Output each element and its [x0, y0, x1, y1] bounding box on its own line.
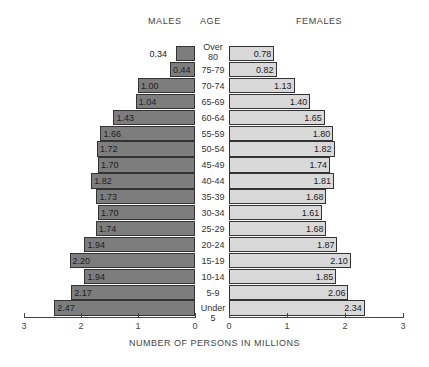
age-label: Over80: [197, 42, 229, 62]
male-value-label: 1.82: [94, 174, 112, 188]
male-axis-tick: [138, 313, 139, 317]
female-value-label: 2.10: [325, 254, 348, 268]
male-value-label: 1.94: [87, 270, 105, 284]
male-axis-tick: [24, 313, 25, 317]
age-label: 25-29: [197, 224, 229, 234]
age-label: 20-24: [197, 240, 229, 250]
female-axis-tick: [287, 313, 288, 317]
age-label: 70-74: [197, 81, 229, 91]
female-value-label: 0.78: [248, 47, 271, 61]
female-value-label: 1.74: [304, 158, 327, 172]
age-label: 15-19: [197, 256, 229, 266]
male-axis-line: [24, 317, 196, 318]
female-value-label: 1.68: [300, 190, 323, 204]
female-value-label: 1.87: [311, 238, 334, 252]
female-value-label: 1.68: [300, 222, 323, 236]
age-label: 60-64: [197, 113, 229, 123]
male-value-label: 2.47: [57, 301, 75, 315]
female-value-label: 1.81: [308, 174, 331, 188]
age-label: 35-39: [197, 192, 229, 202]
female-value-label: 1.80: [307, 127, 330, 141]
female-value-label: 1.82: [309, 142, 332, 156]
male-value-label: 0.34: [150, 47, 168, 61]
male-axis-tick: [81, 313, 82, 317]
age-label: 10-14: [197, 272, 229, 282]
male-value-label: 0.44: [173, 63, 191, 77]
female-value-label: 2.34: [339, 301, 362, 315]
male-axis-tick-label: 1: [132, 321, 144, 331]
age-label: 45-49: [197, 160, 229, 170]
age-label: 40-44: [197, 176, 229, 186]
female-axis-line: [229, 317, 404, 318]
male-axis-tick-label: 2: [75, 321, 87, 331]
age-label: 30-34: [197, 208, 229, 218]
header-age: AGE: [200, 16, 221, 26]
male-bar: [176, 46, 195, 61]
age-label: 55-59: [197, 129, 229, 139]
female-axis-tick: [403, 313, 404, 317]
female-axis-tick-label: 3: [397, 321, 409, 331]
male-value-label: 1.94: [87, 238, 105, 252]
male-axis-tick-label: 0: [189, 321, 201, 331]
female-value-label: 1.61: [296, 206, 319, 220]
age-label: 65-69: [197, 97, 229, 107]
age-label: 50-54: [197, 144, 229, 154]
female-value-label: 0.82: [251, 63, 274, 77]
male-value-label: 1.72: [100, 142, 118, 156]
male-value-label: 2.20: [73, 254, 91, 268]
male-value-label: 1.74: [99, 222, 117, 236]
male-value-label: 1.43: [116, 111, 134, 125]
female-value-label: 1.40: [284, 95, 307, 109]
male-value-label: 2.17: [74, 286, 92, 300]
male-value-label: 1.04: [139, 95, 157, 109]
header-females: FEMALES: [296, 16, 342, 26]
male-value-label: 1.66: [103, 127, 121, 141]
male-bar: [54, 300, 195, 315]
female-value-label: 1.85: [310, 270, 333, 284]
female-axis-tick-label: 2: [339, 321, 351, 331]
male-value-label: 1.70: [101, 206, 119, 220]
male-value-label: 1.00: [141, 79, 159, 93]
male-value-label: 1.70: [101, 158, 119, 172]
header-males: MALES: [148, 16, 182, 26]
female-value-label: 2.06: [322, 286, 345, 300]
female-value-label: 1.13: [269, 79, 292, 93]
female-value-label: 1.65: [299, 111, 322, 125]
female-axis-tick-label: 1: [281, 321, 293, 331]
female-axis-tick: [229, 313, 230, 317]
female-axis-tick-label: 0: [223, 321, 235, 331]
male-axis-tick-label: 3: [18, 321, 30, 331]
x-axis-label: NUMBER OF PERSONS IN MILLIONS: [0, 338, 429, 348]
female-axis-tick: [345, 313, 346, 317]
male-value-label: 1.73: [99, 190, 117, 204]
male-axis-tick: [195, 313, 196, 317]
age-label: 75-79: [197, 65, 229, 75]
age-label: 5-9: [197, 288, 229, 298]
